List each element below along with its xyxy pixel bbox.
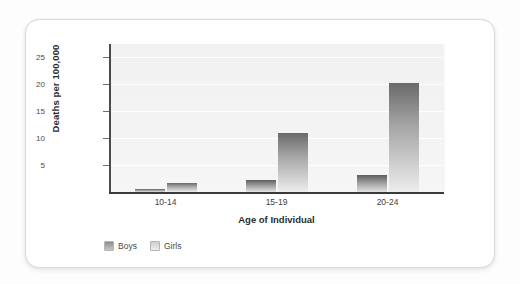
bar-15-19-boys [246, 180, 276, 192]
legend-label: Girls [164, 241, 181, 251]
bar-20-24-girls [389, 83, 419, 192]
bar-chart-figure: Deaths per 100,000 510152025 10-1415-192… [26, 20, 496, 269]
y-tick-label: 10 [23, 134, 45, 143]
x-tick-label: 10-14 [131, 197, 201, 207]
y-tick-mark [103, 57, 109, 58]
y-axis-title: Deaths per 100,000 [50, 19, 61, 159]
y-tick-label: 15 [23, 107, 45, 116]
y-tick-label: 25 [23, 53, 45, 62]
legend-item-girls[interactable]: Girls [150, 241, 181, 251]
x-tick-label: 20-24 [353, 197, 423, 207]
x-axis-title: Age of Individual [110, 214, 443, 225]
x-tick-label: 15-19 [242, 197, 312, 207]
y-tick-mark [103, 165, 109, 166]
legend-label: Boys [118, 241, 137, 251]
y-tick-mark [103, 111, 109, 112]
bar-20-24-boys [357, 175, 387, 192]
legend-item-boys[interactable]: Boys [104, 241, 137, 251]
bars-layer [110, 44, 443, 192]
x-axis-line [109, 192, 444, 194]
chart-card: Deaths per 100,000 510152025 10-1415-192… [25, 19, 495, 268]
legend-swatch-icon [150, 241, 160, 251]
bar-10-14-boys [135, 189, 165, 192]
bar-15-19-girls [278, 133, 308, 192]
screenshot-root: Deaths per 100,000 510152025 10-1415-192… [0, 0, 520, 284]
y-tick-mark [103, 138, 109, 139]
legend-swatch-icon [104, 241, 114, 251]
bar-10-14-girls [167, 183, 197, 192]
y-tick-label: 20 [23, 80, 45, 89]
y-tick-label: 5 [23, 161, 45, 170]
chart-legend: BoysGirls [104, 241, 181, 251]
y-tick-mark [103, 84, 109, 85]
